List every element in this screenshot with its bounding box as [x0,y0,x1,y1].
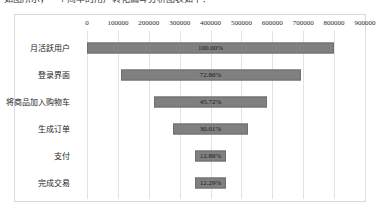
chart-frame: 0100000200000300000400000500000600000700… [14,14,366,202]
bar-value-label: 12.29% [200,178,222,187]
bar-value-label: 72.86% [200,70,222,79]
x-tick-label: 0 [85,17,89,29]
bar-value-label: 100.00% [198,43,223,52]
funnel-row: 支付12.86% [15,142,365,169]
funnel-bar: 45.72% [154,96,267,107]
funnel-bar: 30.01% [173,123,247,134]
gridline [365,31,366,199]
funnel-bar: 100.00% [87,42,334,53]
x-tick-label: 500000 [231,17,252,29]
category-label: 支付 [0,150,70,161]
category-label: 完成交易 [0,177,70,188]
funnel-row: 完成交易12.29% [15,169,365,196]
category-label: 登录界面 [0,69,70,80]
bar-value-label: 45.72% [200,97,222,106]
bar-value-label: 30.01% [200,124,222,133]
x-axis-tick-labels: 0100000200000300000400000500000600000700… [15,17,365,31]
x-tick-label: 100000 [107,17,128,29]
bar-value-label: 12.86% [200,151,222,160]
category-label: 月活跃用户 [0,42,70,53]
category-label: 生成订单 [0,123,70,134]
funnel-rows: 月活跃用户100.00%登录界面72.86%将商品加入购物车45.72%生成订单… [15,31,365,201]
funnel-bar: 12.86% [195,150,227,161]
funnel-row: 登录界面72.86% [15,61,365,88]
x-tick-label: 800000 [324,17,345,29]
x-tick-label: 200000 [138,17,159,29]
funnel-row: 月活跃用户100.00% [15,34,365,61]
funnel-row: 生成订单30.01% [15,115,365,142]
x-tick-label: 600000 [262,17,283,29]
category-label: 将商品加入购物车 [0,96,70,107]
funnel-row: 将商品加入购物车45.72% [15,88,365,115]
x-tick-label: 300000 [169,17,190,29]
x-tick-label: 400000 [200,17,221,29]
plot-area: 0100000200000300000400000500000600000700… [15,15,365,201]
funnel-bar: 72.86% [121,69,301,80]
funnel-bar: 12.29% [195,177,225,188]
x-tick-label: 700000 [293,17,314,29]
chart-page: 如图所示，一个简单的用户转化漏斗分析图表如下： 0100000200000300… [0,0,381,218]
clipped-caption-text: 如图所示，一个简单的用户转化漏斗分析图表如下： [4,0,304,5]
x-tick-label: 900000 [355,17,376,29]
